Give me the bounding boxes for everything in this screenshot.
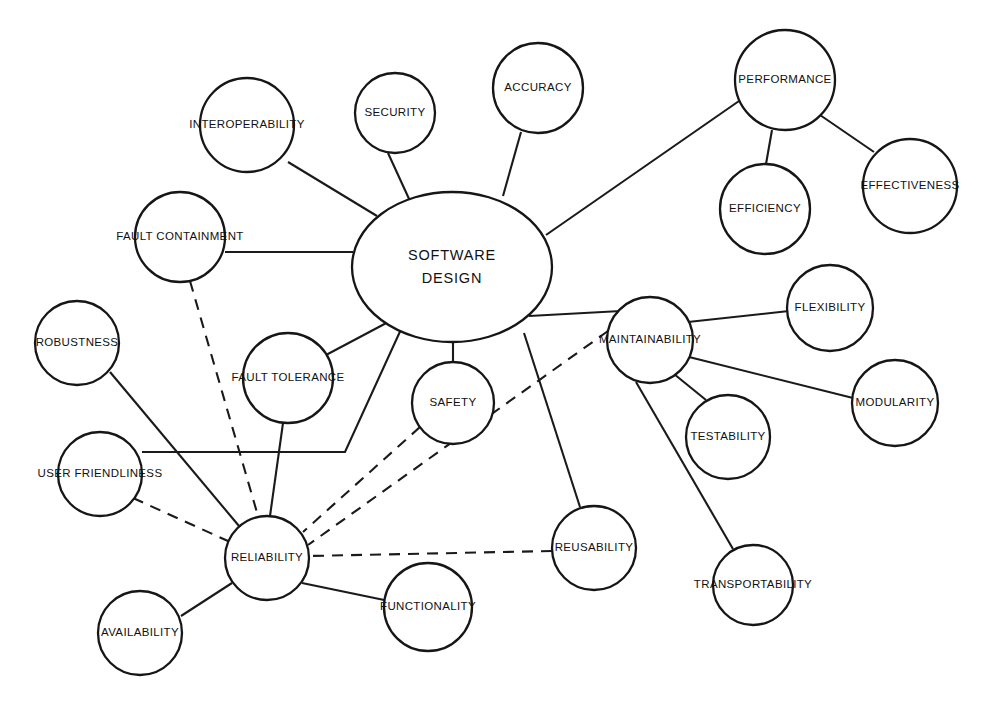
node-reusability[interactable]: REUSABILITY <box>552 506 636 590</box>
edge-fault-tolerance-to-software-design <box>326 320 392 355</box>
node-fault-tolerance[interactable]: FAULT TOLERANCE <box>231 333 344 423</box>
node-maintainability[interactable]: MAINTAINABILITY <box>599 297 701 383</box>
node-shape-fault-containment[interactable] <box>135 192 225 282</box>
node-transportability[interactable]: TRANSPORTABILITY <box>694 545 812 625</box>
edge-performance-to-efficiency <box>766 130 772 164</box>
nodes-layer: SOFTWAREDESIGNINTEROPERABILITYSECURITYAC… <box>35 30 960 675</box>
node-shape-effectiveness[interactable] <box>863 139 957 233</box>
node-interoperability[interactable]: INTEROPERABILITY <box>189 78 305 172</box>
node-shape-software-design[interactable] <box>352 192 552 342</box>
node-shape-interoperability[interactable] <box>200 78 294 172</box>
node-effectiveness[interactable]: EFFECTIVENESS <box>860 139 959 233</box>
node-flexibility[interactable]: FLEXIBILITY <box>787 265 873 351</box>
node-shape-user-friendliness[interactable] <box>58 432 142 516</box>
edge-interoperability-to-software-design <box>288 162 377 216</box>
node-user-friendliness[interactable]: USER FRIENDLINESS <box>38 432 163 516</box>
node-shape-fault-tolerance[interactable] <box>243 333 333 423</box>
edge-reliability-to-availability <box>181 583 232 616</box>
node-performance[interactable]: PERFORMANCE <box>735 30 835 130</box>
node-shape-performance[interactable] <box>735 30 835 130</box>
edge-safety-to-reliability <box>303 427 420 532</box>
node-functionality[interactable]: FUNCTIONALITY <box>380 563 476 651</box>
node-shape-accuracy[interactable] <box>493 43 583 133</box>
node-robustness[interactable]: ROBUSTNESS <box>35 301 119 385</box>
node-shape-functionality[interactable] <box>384 563 472 651</box>
node-shape-reliability[interactable] <box>225 516 309 600</box>
node-shape-robustness[interactable] <box>35 301 119 385</box>
node-accuracy[interactable]: ACCURACY <box>493 43 583 133</box>
edge-maintainability-to-testability <box>674 374 706 400</box>
node-fault-containment[interactable]: FAULT CONTAINMENT <box>116 192 243 282</box>
node-efficiency[interactable]: EFFICIENCY <box>720 164 810 254</box>
edge-reliability-to-functionality <box>302 583 389 601</box>
edge-accuracy-to-software-design <box>503 132 521 196</box>
node-shape-modularity[interactable] <box>852 360 938 446</box>
node-software-design[interactable]: SOFTWAREDESIGN <box>352 192 552 342</box>
edge-maintainability-to-software-design <box>529 311 621 316</box>
edge-fault-tolerance-to-reliability <box>270 423 283 516</box>
node-shape-testability[interactable] <box>686 395 770 479</box>
edge-user-friendliness-to-reliability <box>133 498 228 541</box>
node-reliability[interactable]: RELIABILITY <box>225 516 309 600</box>
node-shape-flexibility[interactable] <box>787 265 873 351</box>
node-modularity[interactable]: MODULARITY <box>852 360 938 446</box>
node-shape-security[interactable] <box>355 73 435 153</box>
edge-reusability-to-reliability <box>309 551 552 556</box>
node-safety[interactable]: SAFETY <box>412 362 494 444</box>
node-shape-safety[interactable] <box>412 362 494 444</box>
software-design-concept-map: SOFTWAREDESIGNINTEROPERABILITYSECURITYAC… <box>0 0 998 701</box>
edge-reusability-to-software-design <box>524 333 580 507</box>
edge-maintainability-to-modularity <box>689 357 853 398</box>
node-shape-availability[interactable] <box>98 591 182 675</box>
concept-map-canvas: SOFTWAREDESIGNINTEROPERABILITYSECURITYAC… <box>0 0 998 701</box>
node-shape-reusability[interactable] <box>552 506 636 590</box>
node-shape-transportability[interactable] <box>713 545 793 625</box>
node-security[interactable]: SECURITY <box>355 73 435 153</box>
node-availability[interactable]: AVAILABILITY <box>98 591 182 675</box>
edge-performance-to-effectiveness <box>820 115 874 152</box>
edge-maintainability-to-flexibility <box>688 311 789 322</box>
edge-performance-to-software-design <box>546 101 739 235</box>
node-testability[interactable]: TESTABILITY <box>686 395 770 479</box>
node-shape-efficiency[interactable] <box>720 164 810 254</box>
node-shape-maintainability[interactable] <box>607 297 693 383</box>
edge-security-to-software-design <box>388 153 410 201</box>
